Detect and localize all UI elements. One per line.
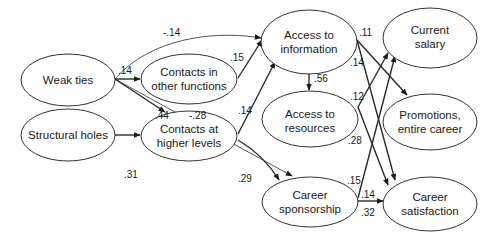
coef-career-sponsorship-current-salary: .15	[347, 175, 361, 186]
coef-weak-ties-contacts-other-functions: .14	[118, 65, 132, 76]
coef-career-sponsorship-career-satisfaction: .32	[361, 207, 375, 218]
coef-access-information-promotions: .11	[359, 27, 373, 38]
node-contacts-other-functions: Contacts in other functions	[141, 54, 237, 104]
node-label-line1: Career	[412, 191, 447, 203]
node-label-line2: information	[281, 43, 338, 55]
coef-contacts-higher-levels-career-sponsorship: .29	[238, 173, 252, 184]
node-label: Structural holes	[28, 129, 108, 141]
coef-weak-ties-access-information: -.14	[163, 27, 181, 38]
node-label-line2: sponsorship	[279, 203, 341, 215]
node-label-line1: Access to	[285, 108, 335, 120]
node-label-line1: Career	[292, 189, 327, 201]
coef-access-information-career-satisfaction: .14	[350, 57, 364, 68]
node-label-line2: salary	[415, 38, 446, 50]
coef-contacts-other-functions-access-information: .15	[230, 52, 244, 63]
node-label-line2: resources	[285, 122, 336, 134]
coef-weak-ties-contacts-higher-levels: .44	[155, 110, 169, 121]
node-career-sponsorship: Career sponsorship	[262, 177, 358, 227]
coef-career-sponsorship-promotions: .14	[361, 189, 375, 200]
node-label-line2: higher levels	[157, 137, 222, 149]
coef-weak-ties-career-sponsorship: -.28	[189, 110, 207, 121]
node-label-line1: Access to	[284, 29, 334, 41]
coef-access-resources-current-salary: .12	[350, 91, 364, 102]
node-label-line2: other functions	[151, 80, 227, 92]
coef-contacts-higher-levels-access-information: .14	[238, 105, 252, 116]
node-label-line2: entire career	[398, 123, 463, 135]
coef-structural-holes-contacts-higher-levels: .31	[124, 169, 138, 180]
node-current-salary: Current salary	[383, 8, 477, 68]
node-label: Weak ties	[43, 74, 94, 86]
node-structural-holes: Structural holes	[21, 109, 115, 161]
node-label-line1: Contacts in	[160, 66, 218, 78]
node-career-satisfaction: Career satisfaction	[383, 177, 477, 231]
node-weak-ties: Weak ties	[21, 54, 115, 106]
node-label-line2: satisfaction	[401, 205, 459, 217]
node-label-line1: Promotions,	[399, 109, 460, 121]
node-label-line1: Current	[411, 24, 450, 36]
coef-access-resources-career-satisfaction: .28	[348, 135, 362, 146]
path-diagram: Weak ties Structural holes Contacts in o…	[0, 0, 497, 241]
node-promotions-entire-career: Promotions, entire career	[383, 94, 477, 150]
node-access-resources: Access to resources	[262, 91, 358, 147]
node-access-information: Access to information	[261, 10, 357, 74]
node-label-line1: Contacts at	[160, 123, 219, 135]
coef-access-information-access-resources: .56	[314, 73, 328, 84]
